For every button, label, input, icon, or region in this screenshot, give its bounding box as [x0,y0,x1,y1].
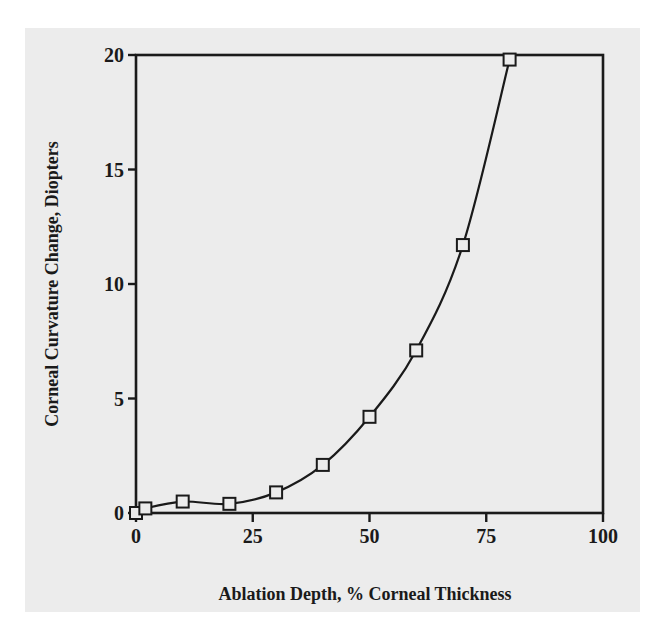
data-point-marker [139,502,151,514]
y-axis-ticks: 05101520 [104,44,136,524]
x-axis-ticks: 0255075100 [131,513,618,547]
y-axis-title: Corneal Curvature Change, Diopters [42,141,62,427]
x-tick-label: 75 [476,525,496,547]
data-point-marker [410,344,422,356]
plot-frame [136,55,603,513]
data-point-marker [270,486,282,498]
data-point-marker [457,239,469,251]
plot-border [136,55,603,513]
data-point-marker [223,498,235,510]
data-point-marker [177,496,189,508]
x-tick-label: 25 [243,525,263,547]
x-axis-title: Ablation Depth, % Corneal Thickness [218,584,511,604]
y-tick-label: 10 [104,273,124,295]
y-tick-label: 15 [104,159,124,181]
data-point-marker [364,411,376,423]
y-tick-label: 20 [104,44,124,66]
x-tick-label: 50 [360,525,380,547]
x-tick-label: 100 [588,525,618,547]
y-tick-label: 0 [114,502,124,524]
chart: 05101520 0255075100 Ablation Depth, % Co… [0,0,658,637]
data-markers [130,54,516,519]
data-point-marker [317,459,329,471]
y-tick-label: 5 [114,388,124,410]
data-curve [136,60,510,513]
x-tick-label: 0 [131,525,141,547]
data-point-marker [504,54,516,66]
